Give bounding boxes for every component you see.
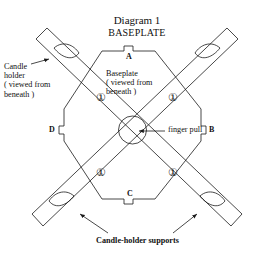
leader-support-left xyxy=(80,214,108,233)
candle-holder-label: Candle holder ( viewed from beneath ) xyxy=(4,62,50,99)
leader-support-right xyxy=(173,214,197,233)
marker-top-right: ① xyxy=(168,91,178,103)
tab-letter-c: C xyxy=(127,190,133,199)
tab-letter-a: A xyxy=(126,53,132,62)
page-title: Diagram 1 xyxy=(0,14,274,26)
diagram-canvas-root: Diagram 1 BASEPLATE Candle holder ( view… xyxy=(0,0,274,266)
candle-holder-supports-label: Candle-holder supports xyxy=(96,236,179,245)
candle-hole-ne xyxy=(195,44,220,58)
candle-hole-nw xyxy=(54,44,79,58)
page-subtitle: BASEPLATE xyxy=(0,27,274,38)
marker-bottom-left: ① xyxy=(96,166,106,178)
tab-letter-d: D xyxy=(49,126,55,135)
baseplate-line-drawing xyxy=(0,0,274,266)
marker-top-left: ① xyxy=(96,91,106,103)
baseplate-label: Baseplate ( viewed from beneath ) xyxy=(106,69,152,97)
finger-pull-label: finger pull xyxy=(168,125,202,134)
tab-letter-b: B xyxy=(209,126,214,135)
marker-bottom-right: ① xyxy=(168,166,178,178)
